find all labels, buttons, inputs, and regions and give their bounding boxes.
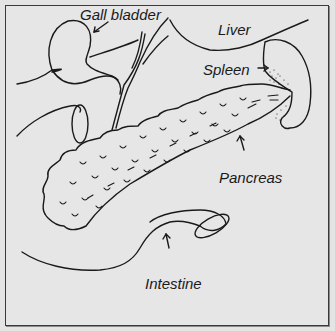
label-spleen: Spleen	[203, 62, 250, 77]
liver-shape	[17, 20, 308, 136]
label-intestine: Intestine	[145, 276, 202, 291]
label-gall-bladder: Gall bladder	[80, 7, 161, 22]
label-liver: Liver	[218, 22, 251, 37]
label-pancreas: Pancreas	[219, 170, 282, 185]
intestine-shape	[22, 210, 232, 271]
gall-bladder-shape	[17, 21, 138, 94]
pancreas-shape	[43, 84, 290, 230]
